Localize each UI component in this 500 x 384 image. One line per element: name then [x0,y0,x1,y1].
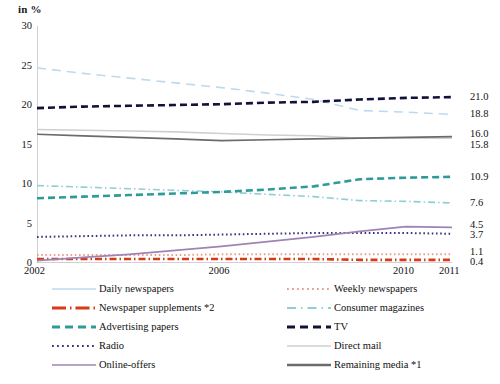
x-axis-tick: 2002 [24,266,45,276]
series-line-tv [37,97,452,108]
series-line-weekly-newspapers [37,254,452,255]
legend-label: Online-offers [99,359,155,370]
series-end-label: 18.8 [470,109,488,119]
x-axis-tick: 2010 [393,266,414,276]
legend-item[interactable]: Daily newspapers [52,279,214,298]
plot-area [37,26,452,263]
legend-column-right: Weekly newspapersConsumer magazinesTVDir… [287,279,424,374]
series-end-label: 10.9 [470,172,488,182]
y-axis-title: in % [18,3,42,15]
legend-label: Newspaper supplements *2 [99,302,214,313]
legend-label: Advertising papers [99,321,179,332]
y-axis-tick: 20 [6,100,32,110]
legend-item[interactable]: Remaining media *1 [287,355,424,374]
legend-item[interactable]: TV [287,317,424,336]
legend-swatch-icon [287,340,331,352]
legend-item[interactable]: Weekly newspapers [287,279,424,298]
series-line-newspaper-supplements-2 [37,259,452,260]
legend-label: Daily newspapers [99,283,174,294]
legend-item[interactable]: Newspaper supplements *2 [52,298,214,317]
chart-root: in % 051015202530 2002200620102011 21.01… [0,0,500,384]
legend-label: Radio [99,340,124,351]
legend-label: TV [334,321,348,332]
legend-label: Direct mail [334,340,382,351]
legend-column-left: Daily newspapersNewspaper supplements *2… [52,279,214,374]
legend-swatch-icon [52,321,96,333]
legend-swatch-icon [52,359,96,371]
legend-item[interactable]: Direct mail [287,336,424,355]
series-line-consumer-magazines [37,186,452,203]
legend-item[interactable]: Advertising papers [52,317,214,336]
series-line-radio [37,233,452,237]
series-end-label: 3.7 [470,230,483,240]
legend-swatch-icon [52,302,96,314]
y-axis-tick: 30 [6,21,32,31]
series-line-remaining-media-1 [37,134,452,140]
legend-swatch-icon [287,359,331,371]
legend-swatch-icon [287,302,331,314]
series-line-online-offers [37,227,452,261]
legend-label: Weekly newspapers [334,283,417,294]
y-axis-tick: 5 [6,219,32,229]
y-axis-tick: 25 [6,61,32,71]
x-axis-tick: 2006 [208,266,229,276]
legend-item[interactable]: Radio [52,336,214,355]
legend-item[interactable]: Consumer magazines [287,298,424,317]
legend-label: Consumer magazines [334,302,424,313]
legend-label: Remaining media *1 [334,359,421,370]
y-axis-tick: 15 [6,140,32,150]
series-end-label: 7.6 [470,198,483,208]
series-end-label: 21.0 [470,92,488,102]
legend-swatch-icon [287,321,331,333]
legend-swatch-icon [287,283,331,295]
x-axis-tick: 2011 [439,266,460,276]
legend-swatch-icon [52,283,96,295]
legend-item[interactable]: Online-offers [52,355,214,374]
legend: Daily newspapersNewspaper supplements *2… [0,279,500,384]
series-line-daily-newspapers [37,68,452,115]
y-axis-tick: 10 [6,179,32,189]
series-lines [37,26,452,263]
legend-swatch-icon [52,340,96,352]
series-end-label: 15.8 [470,140,488,150]
series-end-label: 0.4 [470,257,483,267]
series-end-label: 16.0 [470,129,488,139]
